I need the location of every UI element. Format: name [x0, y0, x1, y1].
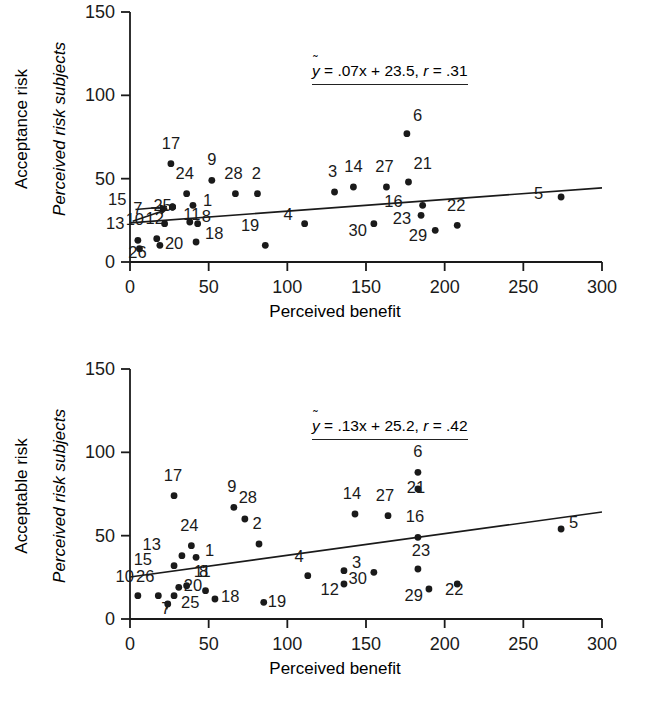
scatter-point-marker [208, 177, 215, 184]
scatter-point-marker [558, 526, 565, 533]
scatter-point-marker [256, 541, 263, 548]
scatter-point-marker [415, 534, 422, 541]
y-axis-tick-label: 150 [85, 2, 115, 22]
y-axis-tick-label: 100 [85, 442, 115, 462]
scatter-point-label: 23 [393, 209, 411, 227]
scatter-point-label: 22 [445, 580, 463, 598]
x-axis-tick-label: 200 [430, 277, 460, 297]
scatter-point-label: 25 [153, 196, 171, 214]
scatter-point-marker [426, 586, 433, 593]
x-axis-tick-label: 250 [508, 634, 538, 654]
y-axis-tick-label: 0 [105, 252, 115, 272]
scatter-point-label: 10 [126, 210, 144, 228]
scatter-point-label: 26 [136, 567, 154, 585]
x-axis-tick-label: 0 [125, 277, 135, 297]
scatter-point-label: 6 [413, 106, 422, 124]
scatter-point-label: 5 [569, 513, 578, 531]
scatter-point-marker [202, 587, 209, 594]
scatter-point-marker [432, 227, 439, 234]
regression-equation-bottom: ˜y = .13x + 25.2, r = .42 [312, 417, 468, 440]
scatter-point-marker [370, 220, 377, 227]
scatter-point-marker [454, 222, 461, 229]
scatter-point-marker [232, 190, 239, 197]
scatter-point-marker [171, 592, 178, 599]
x-axis-tick-label: 150 [351, 634, 381, 654]
scatter-point-label: 29 [409, 226, 427, 244]
y-axis-inner-title-top: Perceived risk subjects [50, 14, 70, 244]
scatter-point-label: 18 [205, 224, 223, 242]
scatter-point-marker [385, 512, 392, 519]
y-axis-outer-title-bottom: Acceptable risk [12, 396, 32, 596]
scatter-point-marker [341, 581, 348, 588]
scatter-point-marker [352, 511, 359, 518]
scatter-point-marker [171, 562, 178, 569]
scatter-point-marker [175, 584, 182, 591]
x-axis-title-bottom: Perceived benefit [230, 659, 440, 679]
scatter-point-label: 5 [534, 184, 543, 202]
scatter-point-marker [415, 566, 422, 573]
scatter-point-label: 2 [252, 514, 261, 532]
x-axis-tick-label: 200 [430, 634, 460, 654]
scatter-point-label: 15 [108, 190, 126, 208]
scatter-point-label: 24 [180, 516, 198, 534]
scatter-point-label: 9 [207, 150, 216, 168]
chart-panel-acceptable-risk: 0501001500501001502002503001234567891011… [0, 357, 645, 713]
scatter-point-label: 30 [349, 569, 367, 587]
scatter-point-label: 14 [343, 484, 361, 502]
y-hat-symbol-top: ˜y [312, 62, 320, 80]
scatter-point-label: 13 [106, 214, 124, 232]
y-hat-symbol-bottom: ˜y [312, 417, 320, 435]
scatter-point-marker [418, 212, 425, 219]
scatter-point-marker [419, 202, 426, 209]
scatter-point-marker [168, 160, 175, 167]
scatter-point-marker [179, 552, 186, 559]
scatter-point-marker [383, 184, 390, 191]
x-axis-tick-label: 50 [199, 277, 219, 297]
scatter-point-marker [415, 469, 422, 476]
scatter-point-label: 23 [412, 541, 430, 559]
scatter-point-label: 28 [239, 488, 257, 506]
scatter-point-label: 21 [413, 154, 431, 172]
scatter-point-marker [230, 504, 237, 511]
scatter-point-label: 1 [205, 541, 214, 559]
x-axis-tick-label: 100 [272, 277, 302, 297]
regression-equation-top: ˜y = .07x + 23.5, r = .31 [312, 62, 468, 85]
scatter-point-label: 15 [134, 550, 152, 568]
scatter-point-marker [350, 184, 357, 191]
scatter-point-label: 3 [328, 162, 337, 180]
scatter-point-marker [171, 492, 178, 499]
scatter-point-label: 7 [161, 599, 170, 617]
y-axis-outer-title-top: Acceptance risk [12, 29, 32, 229]
scatter-point-marker [301, 220, 308, 227]
scatter-point-label: 8 [202, 207, 211, 225]
x-axis-tick-label: 300 [587, 634, 617, 654]
scatter-point-label: 22 [447, 196, 465, 214]
scatter-point-label: 27 [375, 157, 393, 175]
scatter-point-marker [404, 130, 411, 137]
scatter-point-marker [212, 596, 219, 603]
scatter-point-marker [193, 554, 200, 561]
r-value-bottom: = .42 [428, 417, 467, 434]
scatter-point-marker [254, 190, 261, 197]
scatter-point-marker [241, 516, 248, 523]
scatter-point-label: 11 [183, 205, 200, 223]
scatter-point-marker [155, 592, 162, 599]
scatter-point-marker [331, 189, 338, 196]
scatter-point-marker [370, 569, 377, 576]
r-value-top: = .31 [428, 62, 467, 79]
scatter-point-marker [558, 194, 565, 201]
scatter-point-label: 17 [164, 466, 182, 484]
scatter-point-label: 16 [384, 192, 402, 210]
scatter-point-label: 10 [116, 567, 134, 585]
scatter-point-marker [341, 567, 348, 574]
y-axis-tick-label: 50 [95, 526, 115, 546]
scatter-point-marker [260, 599, 267, 606]
x-axis-tick-label: 150 [351, 277, 381, 297]
x-axis-tick-label: 100 [272, 634, 302, 654]
scatter-point-marker [193, 239, 200, 246]
scatter-point-marker [405, 179, 412, 186]
scatter-point-label: 4 [283, 205, 292, 223]
y-axis-tick-label: 150 [85, 359, 115, 379]
scatter-point-label: 17 [162, 134, 180, 152]
scatter-point-label: 27 [376, 486, 394, 504]
